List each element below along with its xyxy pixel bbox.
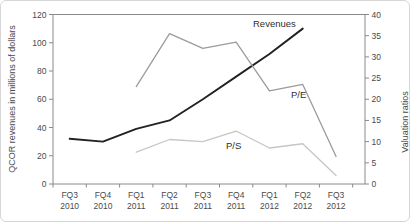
series-label-revenues: Revenues: [253, 18, 296, 29]
x-axis-category-quarter: FQ1: [128, 190, 145, 200]
right-axis-tick-label: 25: [372, 73, 382, 83]
x-axis-category-quarter: FQ3: [195, 190, 212, 200]
x-axis-category-year: 2010: [93, 201, 112, 211]
x-axis-category-quarter: FQ3: [328, 190, 345, 200]
left-axis-title: QCOR revenues in millions of dollars: [6, 14, 18, 184]
x-axis-category-quarter: FQ4: [95, 190, 112, 200]
x-axis-category-quarter: FQ2: [294, 190, 311, 200]
x-axis-category-quarter: FQ4: [228, 190, 245, 200]
series-label-ps: P/S: [226, 140, 241, 151]
right-axis-tick-label: 30: [372, 52, 382, 62]
series-line-revenues: [70, 29, 303, 142]
x-axis-category-year: 2011: [227, 201, 246, 211]
right-axis-tick-label: 15: [372, 115, 382, 125]
left-axis-tick-label: 40: [37, 123, 47, 133]
left-axis-tick-label: 120: [32, 10, 46, 20]
chart-plot-area: 0204060801001200510152025303540FQ32010FQ…: [1, 1, 410, 222]
x-axis-category-year: 2010: [60, 201, 79, 211]
left-axis-tick-label: 80: [37, 66, 47, 76]
x-axis-category-year: 2011: [194, 201, 213, 211]
left-axis-tick-label: 20: [37, 151, 47, 161]
x-axis-category-year: 2011: [160, 201, 179, 211]
right-axis-tick-label: 0: [372, 179, 377, 189]
series-label-pe: P/E: [291, 89, 306, 100]
x-axis-category-year: 2012: [293, 201, 312, 211]
right-axis-tick-label: 20: [372, 94, 382, 104]
right-axis-title: Valuation ratios: [399, 87, 410, 157]
right-axis-tick-label: 35: [372, 31, 382, 41]
right-axis-tick-label: 5: [372, 158, 377, 168]
x-axis-category-quarter: FQ2: [161, 190, 178, 200]
qcor-valuation-chart: 0204060801001200510152025303540FQ32010FQ…: [0, 0, 410, 222]
x-axis-category-quarter: FQ1: [261, 190, 278, 200]
left-axis-tick-label: 100: [32, 38, 46, 48]
x-axis-category-quarter: FQ3: [61, 190, 78, 200]
x-axis-category-year: 2011: [127, 201, 146, 211]
left-axis-tick-label: 60: [37, 94, 47, 104]
right-axis-tick-label: 40: [372, 10, 382, 20]
left-axis-tick-label: 0: [42, 179, 47, 189]
x-axis-category-year: 2012: [327, 201, 346, 211]
series-line-ps: [136, 131, 336, 175]
x-axis-category-year: 2012: [260, 201, 279, 211]
right-axis-tick-label: 10: [372, 137, 382, 147]
